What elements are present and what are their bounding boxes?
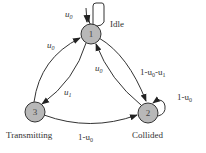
edge-2-1 bbox=[96, 44, 141, 105]
edge-2-2-self-loop-arrow bbox=[153, 100, 157, 103]
edge-label-1-3: u1 bbox=[64, 87, 72, 98]
edge-3-2 bbox=[44, 115, 137, 124]
edge-label-1-2: 1-u0-u1 bbox=[140, 67, 166, 78]
state-name-collided: Collided bbox=[132, 130, 163, 140]
edge-1-2 bbox=[99, 38, 146, 101]
state-name-transmitting: Transmitting bbox=[6, 130, 53, 140]
edge-1-1-self-loop bbox=[89, 3, 104, 26]
state-diagram: 1 2 3 Idle Collided Transmitting u0 u0 u… bbox=[0, 0, 206, 153]
state-name-idle: Idle bbox=[110, 19, 124, 29]
edge-label-3-1: u0 bbox=[47, 40, 55, 51]
node-transmitting: 3 bbox=[25, 102, 45, 122]
edge-label-2-1: u0 bbox=[95, 63, 103, 74]
node-2-label: 2 bbox=[146, 108, 151, 118]
node-idle: 1 bbox=[81, 24, 101, 44]
node-collided: 2 bbox=[138, 103, 158, 123]
node-3-label: 3 bbox=[33, 107, 38, 117]
edge-1-1-self-loop-arrow bbox=[86, 8, 87, 22]
edge-label-3-2: 1-u0 bbox=[78, 132, 93, 143]
edge-label-1-1: u0 bbox=[65, 9, 73, 20]
node-1-label: 1 bbox=[89, 29, 94, 39]
edge-label-2-2: 1-u0 bbox=[177, 92, 192, 103]
edge-3-1 bbox=[34, 38, 80, 102]
